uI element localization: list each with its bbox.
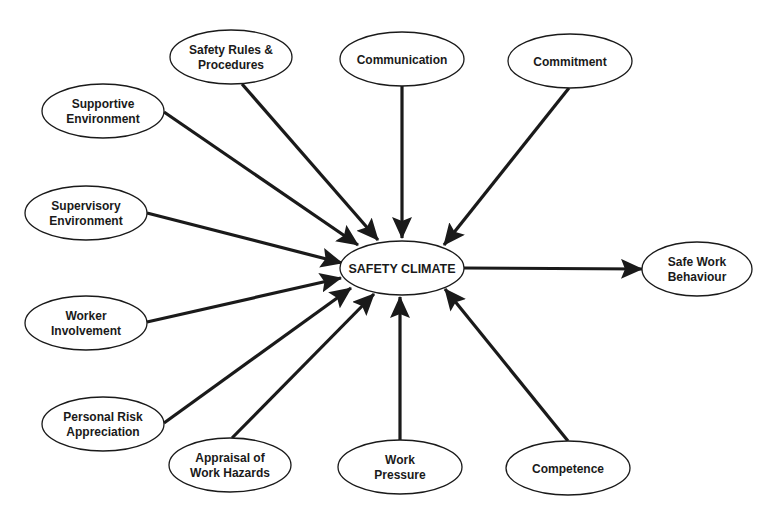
arrow-competence-to-safety-climate: [445, 289, 568, 441]
node-safety-climate-label: SAFETY CLIMATE: [348, 262, 455, 276]
node-commitment: Commitment: [508, 34, 632, 88]
node-work-pressure-label: Pressure: [374, 468, 426, 482]
node-safety-rules-procedures-ellipse: [170, 30, 292, 84]
arrow-personal-risk-appreciation-to-safety-climate: [164, 288, 351, 423]
nodes: Safety Rules &ProceduresCommunicationCom…: [25, 30, 752, 495]
node-safe-work-behaviour-label: Safe Work: [668, 255, 727, 269]
node-work-pressure-ellipse: [338, 440, 462, 494]
node-supervisory-environment-ellipse: [25, 186, 147, 240]
node-supportive-environment-ellipse: [42, 84, 164, 138]
node-safety-rules-procedures-label: Procedures: [198, 58, 264, 72]
node-worker-involvement: WorkerInvolvement: [25, 296, 147, 350]
node-commitment-label: Commitment: [533, 55, 606, 69]
node-competence: Competence: [506, 441, 630, 495]
node-worker-involvement-ellipse: [25, 296, 147, 350]
node-supportive-environment-label: Environment: [66, 112, 139, 126]
safety-climate-diagram: Safety Rules &ProceduresCommunicationCom…: [0, 0, 782, 515]
node-supportive-environment: SupportiveEnvironment: [42, 84, 164, 138]
arrow-supervisory-environment-to-safety-climate: [147, 213, 342, 263]
node-worker-involvement-label: Involvement: [51, 324, 121, 338]
node-appraisal-of-work-hazards-ellipse: [169, 438, 291, 492]
cut-off-title: [0, 0, 782, 3]
arrow-appraisal-of-work-hazards-to-safety-climate: [232, 294, 374, 438]
arrow-safety-climate-to-safe-work-behaviour: [464, 268, 642, 269]
node-worker-involvement-label: Worker: [65, 309, 106, 323]
node-safe-work-behaviour: Safe WorkBehaviour: [642, 242, 752, 296]
node-personal-risk-appreciation: Personal RiskAppreciation: [42, 397, 164, 451]
node-safety-rules-procedures: Safety Rules &Procedures: [170, 30, 292, 84]
node-work-pressure-label: Work: [385, 453, 415, 467]
node-supervisory-environment-label: Environment: [49, 214, 122, 228]
node-appraisal-of-work-hazards: Appraisal ofWork Hazards: [169, 438, 291, 492]
node-supervisory-environment: SupervisoryEnvironment: [25, 186, 147, 240]
node-communication: Communication: [340, 32, 464, 86]
node-work-pressure: WorkPressure: [338, 440, 462, 494]
node-safe-work-behaviour-label: Behaviour: [668, 270, 727, 284]
node-safety-climate: SAFETY CLIMATE: [340, 241, 464, 295]
node-safety-rules-procedures-label: Safety Rules &: [189, 43, 273, 57]
node-personal-risk-appreciation-label: Personal Risk: [63, 410, 143, 424]
node-personal-risk-appreciation-label: Appreciation: [66, 425, 139, 439]
node-communication-label: Communication: [357, 53, 448, 67]
node-supportive-environment-label: Supportive: [72, 97, 135, 111]
node-appraisal-of-work-hazards-label: Work Hazards: [190, 466, 270, 480]
node-appraisal-of-work-hazards-label: Appraisal of: [195, 451, 265, 465]
node-personal-risk-appreciation-ellipse: [42, 397, 164, 451]
arrow-commitment-to-safety-climate: [444, 88, 569, 245]
node-safe-work-behaviour-ellipse: [642, 242, 752, 296]
node-competence-label: Competence: [532, 462, 604, 476]
node-supervisory-environment-label: Supervisory: [51, 199, 121, 213]
arrow-safety-rules-procedures-to-safety-climate: [242, 84, 378, 240]
